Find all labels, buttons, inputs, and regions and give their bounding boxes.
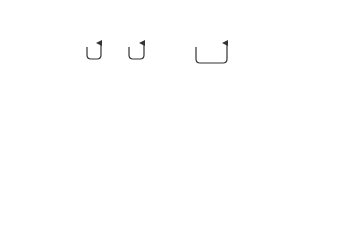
expression-tree-arrows [0,0,355,247]
